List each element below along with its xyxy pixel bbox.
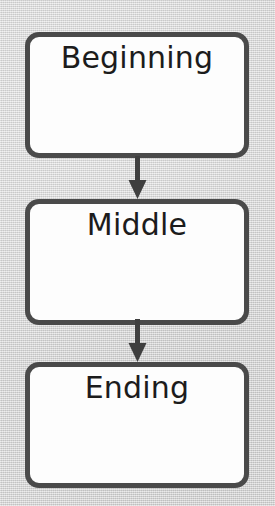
flow-node-label: Ending [30,367,244,403]
flow-node-ending[interactable]: Ending [25,362,249,488]
flow-node-label: Beginning [30,37,244,73]
flow-connector-beginning-to-middle [0,156,275,200]
down-arrow-icon [0,156,275,200]
flow-connector-middle-to-ending [0,319,275,363]
flow-node-middle[interactable]: Middle [25,199,249,325]
flow-node-beginning[interactable]: Beginning [25,32,249,158]
down-arrow-icon [0,319,275,363]
flow-node-label: Middle [30,204,244,240]
flowchart-canvas: Beginning Middle Ending [0,0,275,506]
